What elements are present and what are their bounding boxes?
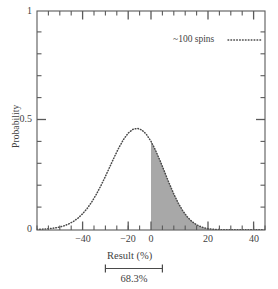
y-axis-ticks <box>37 32 46 207</box>
y-axis-ticks-right <box>256 32 265 207</box>
plot-canvas <box>0 0 278 289</box>
shaded-area-region <box>151 141 218 230</box>
x-tick-label-40: 40 <box>239 234 269 244</box>
legend-entry-label: ~100 spins <box>173 35 214 45</box>
x-tick-label-0: 0 <box>137 234 165 244</box>
x-axis-label: Result (%) <box>107 251 152 262</box>
x-tick-label-20: 20 <box>193 234 223 244</box>
y-tick-label-0: 0 <box>14 224 32 234</box>
confidence-interval-label: 68.3% <box>109 274 159 285</box>
chart-figure: 1 0.5 0 Probability −40 −20 0 20 40 Resu… <box>0 0 278 289</box>
confidence-interval-bracket <box>105 265 162 273</box>
y-tick-label-1: 1 <box>14 6 32 16</box>
y-axis-label: Probability <box>12 105 22 148</box>
x-tick-label-minus40: −40 <box>66 234 100 244</box>
x-axis-ticks-top <box>48 11 253 20</box>
